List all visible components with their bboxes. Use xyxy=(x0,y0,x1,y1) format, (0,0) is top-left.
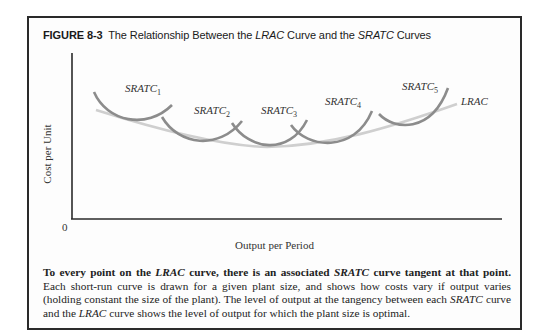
lrac-label: LRAC xyxy=(460,95,489,107)
sratc4-label: SRATC4 xyxy=(325,95,361,110)
sratc3-curve xyxy=(232,120,307,145)
figure-frame: FIGURE 8-3 The Relationship Between the … xyxy=(27,16,522,330)
x-axis-label: Output per Period xyxy=(29,239,520,251)
caption-sratc: SRATC xyxy=(450,293,483,305)
figure-caption: To every point on the LRAC curve, there … xyxy=(43,266,511,320)
caption-body: Each short-run curve is drawn for a give… xyxy=(43,280,511,306)
sratc3-label: SRATC3 xyxy=(261,104,297,119)
origin-label: 0 xyxy=(62,221,68,233)
caption-lead: To every point on the LRAC curve, there … xyxy=(43,266,511,278)
sratc5-label: SRATC5 xyxy=(402,80,438,95)
sratc1-label: SRATC1 xyxy=(125,82,161,97)
sratc2-label: SRATC2 xyxy=(194,104,230,119)
caption-body: curve shows the level of output for whic… xyxy=(106,307,410,319)
y-axis-label: Cost per Unit xyxy=(41,124,53,183)
caption-lrac: LRAC xyxy=(79,307,107,319)
